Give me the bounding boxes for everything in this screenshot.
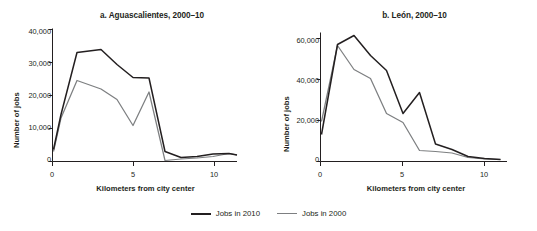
panel-a-series-jobs-2000 — [54, 81, 238, 161]
panel-a-series-jobs-2010 — [54, 50, 238, 158]
legend-entry-jobs-2000: Jobs in 2000 — [277, 209, 346, 218]
panel-b-plot — [268, 0, 537, 200]
legend-entry-jobs-2010: Jobs in 2010 — [191, 209, 260, 218]
legend-label-jobs-2010: Jobs in 2010 — [216, 209, 260, 218]
legend-label-jobs-2000: Jobs in 2000 — [302, 209, 346, 218]
panel-b-series-jobs-2010 — [322, 36, 501, 160]
chart-panel-aguascalientes: a. Aguascalientes, 2000–10 Number of job… — [0, 0, 268, 200]
chart-panels: a. Aguascalientes, 2000–10 Number of job… — [0, 0, 537, 200]
legend-line-swatch-icon — [191, 213, 211, 215]
chart-panel-leon: b. León, 2000–10 Number of jobs Kilomete… — [268, 0, 537, 200]
panel-a-axes — [49, 29, 238, 167]
legend-line-swatch-icon — [277, 213, 297, 214]
chart-legend: Jobs in 2010 Jobs in 2000 — [0, 203, 537, 231]
panel-b-axes — [317, 33, 508, 167]
figure-container: a. Aguascalientes, 2000–10 Number of job… — [0, 0, 537, 231]
panel-a-plot — [0, 0, 268, 200]
